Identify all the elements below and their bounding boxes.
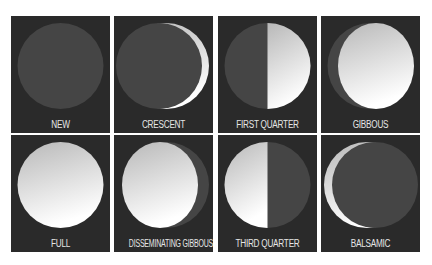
moon-phase-grid: NEW CRESCENT FIRST QUARTER GIBBOUS FULL [11,16,421,252]
phase-panel-new: NEW [11,16,110,133]
phase-panel-gibbous: GIBBOUS [321,16,420,133]
new-moon-icon [11,16,110,133]
balsamic-moon-icon [321,135,420,252]
first-quarter-moon-icon [218,16,317,133]
full-moon-icon [11,135,110,252]
phase-label: BALSAMIC [330,238,411,249]
phase-panel-balsamic: BALSAMIC [321,135,420,252]
disseminating-gibbous-moon-icon [114,135,213,252]
crescent-moon-icon [114,16,213,133]
phase-panel-full: FULL [11,135,110,252]
phase-label: DISSEMINATING GIBBOUS [129,238,198,249]
third-quarter-moon-icon [218,135,317,252]
phase-label: CRESCENT [123,119,204,130]
phase-label: FULL [20,238,101,249]
phase-label: NEW [20,119,101,130]
phase-panel-third-quarter: THIRD QUARTER [218,135,317,252]
gibbous-moon-icon [321,16,420,133]
phase-label: FIRST QUARTER [227,119,308,130]
phase-panel-disseminating-gibbous: DISSEMINATING GIBBOUS [114,135,213,252]
phase-panel-crescent: CRESCENT [114,16,213,133]
phase-panel-first-quarter: FIRST QUARTER [218,16,317,133]
phase-label: THIRD QUARTER [227,238,308,249]
phase-label: GIBBOUS [330,119,411,130]
